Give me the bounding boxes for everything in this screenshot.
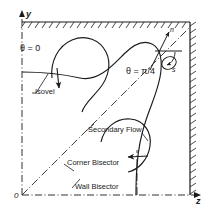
top-wall-hatching [21,22,186,28]
z-axis-label: z [196,197,201,206]
n-coordinate-label: n [170,26,174,33]
corner-bisector-label: Corner Bisector [67,159,119,167]
s-coordinate-label: s [172,66,176,73]
secondary-flow-diagram: y z 0 θ = 0 θ = π/4 Isovel Secondary Flo… [0,0,215,217]
secondary-flow-label: Secondary Flow [88,126,142,134]
right-wall-hatching [190,22,196,194]
origin-label: 0 [14,192,18,200]
theta-pi-over-4-label: θ = π/4 [126,67,155,76]
flow-arrows [57,68,148,157]
wall-bisector-label: Wall Bisector [75,183,118,191]
theta-zero-label: θ = 0 [20,44,40,53]
y-axis-label: y [26,10,31,19]
s-axis-arc [167,52,175,65]
isovel-curves [22,38,161,195]
flow-arrow-left [128,156,148,157]
duct-walls [21,22,196,195]
flow-arrow-down [57,68,59,88]
isovel-label: Isovel [35,88,55,96]
axis-lines [19,10,201,198]
leader-secondary-flow-right [142,133,148,141]
y-axis-arrowhead [19,10,25,17]
